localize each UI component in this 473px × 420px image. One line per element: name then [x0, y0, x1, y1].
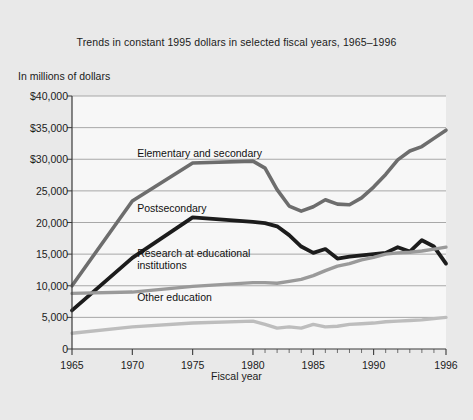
- chart-panel: Trends in constant 1995 dollars in selec…: [10, 14, 463, 406]
- y-tick-label: $35,000: [10, 122, 68, 134]
- y-tick-label: 15,000: [10, 248, 68, 260]
- plot-area: [10, 14, 463, 406]
- chart-figure: Trends in constant 1995 dollars in selec…: [0, 0, 473, 420]
- series-annotation: Other education: [137, 291, 212, 303]
- y-tick-label: 10,000: [10, 280, 68, 292]
- x-axis-label: Fiscal year: [10, 370, 463, 382]
- y-tick-label: 5,000: [10, 311, 68, 323]
- series-annotation: Elementary and secondary: [137, 147, 262, 159]
- y-tick-label: 0: [10, 343, 68, 355]
- y-tick-label: 25,000: [10, 185, 68, 197]
- y-tick-label: $30,000: [10, 153, 68, 165]
- series-annotation: Postsecondary: [137, 202, 206, 214]
- y-tick-label: 20,000: [10, 217, 68, 229]
- series-annotation: Research at educational institutions: [137, 247, 250, 271]
- y-tick-label: $40,000: [10, 90, 68, 102]
